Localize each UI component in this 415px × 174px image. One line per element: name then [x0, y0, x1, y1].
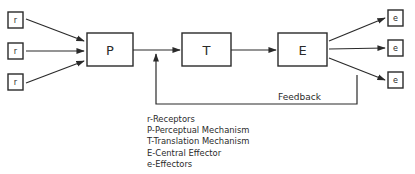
central-effector-box: E — [278, 33, 327, 66]
perceptual-label: P — [106, 43, 114, 58]
receptor-box-2: r — [8, 43, 23, 59]
legend-item-perceptual: P-Perceptual Mechanism — [147, 125, 249, 136]
arrow-e-to-e2 — [329, 48, 385, 49]
translation-mechanism-box: T — [182, 33, 231, 66]
central-effector-label: E — [298, 43, 306, 58]
legend-item-receptors: r-Receptors — [147, 114, 249, 125]
effector-box-3: e — [388, 72, 403, 88]
effector-label-1: e — [393, 14, 398, 23]
receptor-box-3: r — [8, 74, 23, 90]
perceptual-mechanism-box: P — [87, 33, 133, 66]
effector-box-2: e — [388, 40, 403, 56]
effector-label-3: e — [393, 76, 398, 85]
feedback-label: Feedback — [278, 92, 322, 102]
effector-label-2: e — [393, 44, 398, 53]
effector-box-1: e — [388, 10, 403, 26]
receptor-box-1: r — [8, 12, 23, 28]
legend-item-central-effector: E-Central Effector — [147, 148, 249, 159]
arrow-r3-to-p — [26, 61, 84, 83]
arrow-r1-to-p — [26, 19, 84, 41]
translation-label: T — [202, 43, 211, 58]
arrow-e-to-e1 — [329, 18, 385, 41]
legend: r-Receptors P-Perceptual Mechanism T-Tra… — [147, 114, 249, 170]
legend-item-effectors: e-Effectors — [147, 159, 249, 170]
legend-item-translation: T-Translation Mechanism — [147, 136, 249, 147]
